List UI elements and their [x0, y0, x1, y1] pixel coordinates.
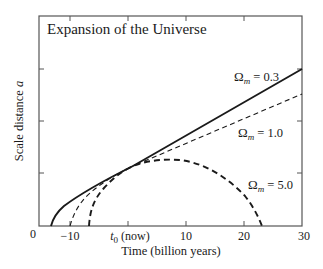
- omega-symbol: Ω: [234, 69, 244, 84]
- x-tick-minus-10: −10: [61, 229, 80, 244]
- t0-subscript: 0: [114, 235, 119, 245]
- x-axis-ticks: [70, 221, 244, 226]
- series-omega-5-0-line: [89, 160, 262, 226]
- omega-subscript: m: [244, 76, 251, 86]
- omega-1-0-value: = 1.0: [254, 126, 283, 140]
- omega-5-0-value: = 5.0: [264, 178, 293, 192]
- label-omega-1-0: Ωm = 1.0: [238, 125, 283, 141]
- chart-title: Expansion of the Universe: [47, 21, 207, 38]
- omega-subscript: m: [258, 184, 265, 194]
- omega-symbol: Ω: [238, 125, 248, 140]
- x-tick-30: 30: [298, 229, 310, 244]
- t0-now-text: (now): [118, 229, 150, 243]
- right-ticks: [297, 69, 302, 173]
- y-axis-label: Scale distance a: [12, 81, 27, 162]
- omega-0-3-value: = 0.3: [250, 70, 279, 84]
- label-omega-5-0: Ωm = 5.0: [248, 177, 293, 193]
- x-tick-10: 10: [180, 229, 192, 244]
- x-tick-t0-now: t0 (now): [110, 229, 150, 244]
- y-axis-label-text: Scale distance: [12, 87, 26, 161]
- x-tick-20: 20: [238, 229, 250, 244]
- omega-subscript: m: [248, 132, 255, 142]
- y-axis-ticks: [39, 69, 44, 173]
- y-axis-zero-label: 0: [30, 227, 36, 242]
- omega-symbol: Ω: [248, 177, 258, 192]
- label-omega-0-3: Ωm = 0.3: [234, 69, 279, 85]
- x-axis-label: Time (billion years): [121, 244, 221, 259]
- plot-frame: [39, 16, 302, 226]
- y-axis-label-var: a: [12, 81, 26, 87]
